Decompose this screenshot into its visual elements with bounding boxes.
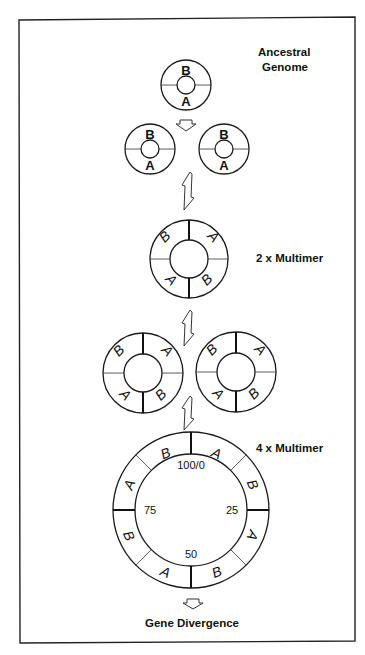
segment-label: B xyxy=(145,127,154,142)
recombination-arrow-icon xyxy=(182,396,194,430)
multimer-2x-right: A B A B xyxy=(196,332,276,412)
gene-divergence-caption: Gene Divergence xyxy=(145,617,239,629)
ancestral-caption-line1: Ancestral xyxy=(258,46,310,58)
map-position-left: 75 xyxy=(144,504,156,516)
multimer-2x-caption: 2 x Multimer xyxy=(256,252,324,264)
segment-label: A xyxy=(145,158,155,173)
segment-label: A xyxy=(181,94,191,109)
multimer-2x: A B A B xyxy=(150,220,228,298)
down-arrow-icon xyxy=(176,120,196,131)
recombination-arrow-icon xyxy=(182,310,194,346)
recombination-arrow-icon xyxy=(182,172,194,210)
genome-copy-left: B A xyxy=(125,124,175,174)
ancestral-caption-line2: Genome xyxy=(262,61,308,73)
ancestral-genome: B A xyxy=(161,60,211,110)
map-position-bottom: 50 xyxy=(185,548,197,560)
map-position-right: 25 xyxy=(226,504,238,516)
genome-copy-right: B A xyxy=(199,124,249,174)
segment-label: A xyxy=(219,158,229,173)
multimer-4x-caption: 4 x Multimer xyxy=(256,442,324,454)
down-arrow-icon xyxy=(183,599,203,609)
multimer-4x: A B A B A B A B 100/0 25 50 75 xyxy=(113,432,269,588)
multimer-2x-left: A B A B xyxy=(103,333,183,413)
segment-label: B xyxy=(219,127,228,142)
genome-multimer-diagram: B A Ancestral Genome B A B A A B A B 2 x… xyxy=(0,0,365,655)
segment-label: B xyxy=(181,63,190,78)
map-position-top: 100/0 xyxy=(177,459,205,471)
